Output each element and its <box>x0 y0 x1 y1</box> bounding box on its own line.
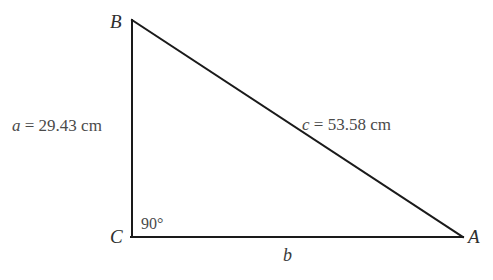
side-b-label: b <box>283 246 292 264</box>
side-c-line <box>132 20 463 237</box>
vertex-label-c: C <box>110 227 123 246</box>
side-a-label: a = 29.43 cm <box>12 117 102 134</box>
side-c-value: = 53.58 cm <box>314 115 391 134</box>
side-c-variable: c <box>302 115 310 134</box>
side-c-label: c = 53.58 cm <box>302 116 391 133</box>
side-a-variable: a <box>12 116 21 135</box>
right-angle-label: 90° <box>141 216 163 232</box>
side-a-value: = 29.43 cm <box>25 116 102 135</box>
vertex-label-a: A <box>468 227 480 246</box>
vertex-label-b: B <box>110 12 122 31</box>
triangle-figure: B C A 90° a = 29.43 cm c = 53.58 cm b <box>0 0 493 280</box>
triangle-outline <box>0 0 493 280</box>
